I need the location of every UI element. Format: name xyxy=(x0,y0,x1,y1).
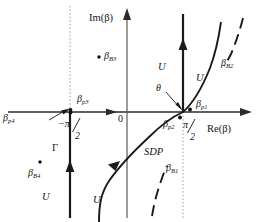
angle-theta-label: θ xyxy=(156,83,161,93)
imaginary-axis-arrowhead xyxy=(123,8,131,20)
branch-label-beta-B1: βB1 xyxy=(166,163,178,174)
region-label-u-upper-left: U xyxy=(158,62,166,73)
tick-label-minus-pi-over-2-denominator: 2 xyxy=(75,126,80,142)
real-axis-mid-arrowhead xyxy=(106,109,117,116)
y-axis-label: Im(β) xyxy=(89,13,113,24)
branch-label-beta-B3: βB3 xyxy=(104,51,116,62)
pole-label-beta-p1: βp1 xyxy=(196,99,208,110)
gamma-contour-arrowhead xyxy=(66,160,75,172)
branch-dot-beta-B3 xyxy=(97,55,100,58)
pole-label-beta-p4: βp4 xyxy=(3,113,15,124)
branch-label-beta-B2: βB2 xyxy=(221,58,233,69)
tick-label-minus-pi-over-2-numerator: −π xyxy=(58,114,70,130)
pole-label-beta-p2: βp2 xyxy=(163,119,175,130)
pole-dot-beta-p1 xyxy=(188,108,192,112)
complex-plane-plot xyxy=(0,0,265,222)
tick-label-pi-over-2-numerator: π xyxy=(183,115,188,131)
tick-label-pi-over-2-denominator: 2 xyxy=(190,127,195,143)
x-axis-label: Re(β) xyxy=(207,124,231,135)
figure-container: Re(β) Im(β) 0 −π 2 π 2 θ Γ SDP U U U U xyxy=(0,0,265,222)
branch-dot-beta-B4 xyxy=(38,160,41,163)
pole-label-beta-p3: βp3 xyxy=(77,94,89,105)
real-axis-arrowhead xyxy=(240,108,252,116)
upper-vertical-contour-arrowhead xyxy=(179,38,188,50)
origin-label: 0 xyxy=(118,114,123,124)
theta-leader-arrowhead xyxy=(176,102,184,111)
gamma-contour-label: Γ xyxy=(52,143,58,154)
branch-cut-B1-dashed xyxy=(152,166,167,216)
region-label-u-right: U xyxy=(196,73,204,84)
region-label-u-lower-left: U xyxy=(42,192,50,203)
branch-label-beta-B4: βB4 xyxy=(28,168,40,179)
sdp-label: SDP xyxy=(144,147,163,158)
region-label-u-lower-right: U xyxy=(93,195,101,206)
pole-dot-beta-p2 xyxy=(178,116,182,120)
